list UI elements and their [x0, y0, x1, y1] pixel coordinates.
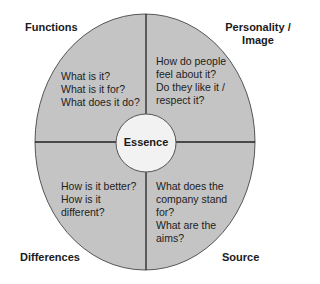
label-line: Personality / [218, 21, 295, 34]
quadrant-label-differences: Differences [20, 251, 80, 264]
question: aims? [156, 232, 227, 245]
question: How is it [61, 193, 136, 206]
question: What is it for? [61, 83, 140, 96]
quadrant-questions-source: What does the company stand for? What ar… [156, 180, 227, 245]
question: What does the [156, 180, 227, 193]
quadrant-questions-personality: How do people feel about it? Do they lik… [156, 55, 226, 107]
label-line: Image [218, 34, 295, 47]
quadrant-questions-differences: How is it better? How is it different? [61, 180, 136, 219]
quadrant-label-personality: Personality / Image [218, 21, 295, 47]
quadrant-questions-functions: What is it? What is it for? What does it… [61, 70, 140, 109]
question: company stand [156, 193, 227, 206]
question: What is it? [61, 70, 140, 83]
question: different? [61, 206, 136, 219]
quadrant-label-source: Source [222, 251, 259, 264]
question: What are the [156, 219, 227, 232]
question: feel about it? [156, 68, 226, 81]
question: Do they like it / [156, 81, 226, 94]
question: What does it do? [61, 96, 140, 109]
question: for? [156, 206, 227, 219]
question: respect it? [156, 94, 226, 107]
question: How is it better? [61, 180, 136, 193]
center-label: Essence [116, 136, 176, 148]
quadrant-label-functions: Functions [25, 21, 78, 34]
question: How do people [156, 55, 226, 68]
